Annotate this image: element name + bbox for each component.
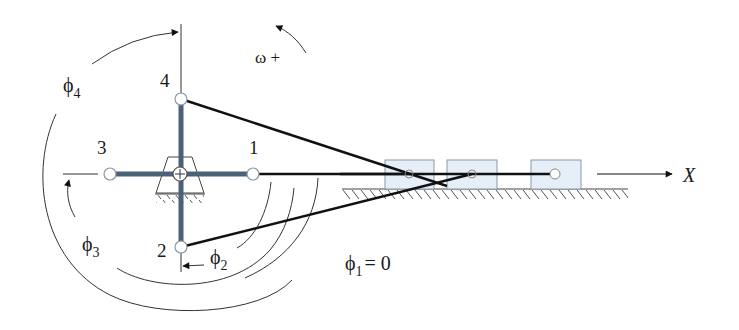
- label-3: 3: [97, 137, 107, 158]
- phi3-label: ϕ3: [82, 233, 100, 260]
- label-x: X: [682, 164, 696, 186]
- crank-slider-diagram: X 4 3 1 2 ω + ϕ4 ϕ3 ϕ2 ϕ1= 0: [0, 0, 739, 330]
- phi4-arc: [92, 32, 178, 64]
- joint-2: [175, 241, 187, 253]
- joint-1: [247, 168, 259, 180]
- phi2-arc: [237, 182, 271, 248]
- phi3-arc: [68, 180, 75, 217]
- phi2-label: ϕ2: [210, 246, 228, 273]
- phi2-arrow: [183, 265, 204, 266]
- rod-2: [181, 174, 472, 247]
- label-2: 2: [157, 240, 167, 261]
- joint-3: [104, 168, 116, 180]
- omega-arrow: [276, 26, 306, 53]
- label-4: 4: [160, 70, 170, 91]
- ground-hatch: [342, 190, 628, 199]
- slider-pin-3: [550, 169, 560, 179]
- omega-label: ω +: [255, 48, 280, 67]
- phi1-label: ϕ1= 0: [345, 252, 391, 279]
- label-1: 1: [249, 137, 259, 158]
- phi4-label: ϕ4: [63, 74, 81, 101]
- joint-4: [175, 93, 187, 105]
